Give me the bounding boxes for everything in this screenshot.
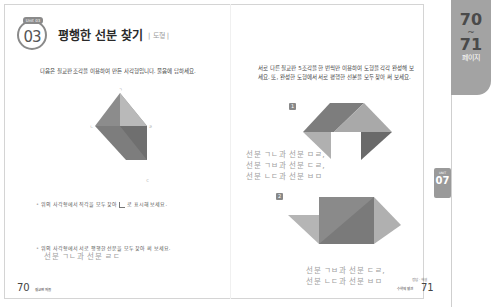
right-page-number: 71 bbox=[421, 282, 434, 293]
figure-1-number: 1 bbox=[289, 103, 296, 110]
page-range-label: 페이지 bbox=[451, 53, 491, 63]
point-label: ㄷ bbox=[146, 178, 149, 183]
figure-2-answer: 선분 ㄱㅂ과 선분 ㄷㄹ, 선분 ㄴㄷ과 선분 ㅂㅁ bbox=[306, 265, 385, 287]
unit-tab-number: 07 bbox=[434, 175, 451, 187]
page-range-tab: 70 ~ 71 페이지 bbox=[451, 0, 491, 95]
bullet-mark: • bbox=[36, 201, 39, 207]
question-1: •위의 사각형에서 직각을 모두 찾아로 표시해 보세요. bbox=[36, 200, 167, 208]
page-title: 평행한 선분 찾기 bbox=[58, 26, 143, 43]
category-label: | 도형 | bbox=[148, 30, 169, 40]
point-label: ㄱ bbox=[119, 87, 122, 92]
right-instruction-line1: 서로 다른 칠교판 5조각을 한 번씩만 이용하여 도형을 각각 완성해 보 bbox=[258, 64, 438, 73]
right-angle-icon bbox=[119, 202, 125, 208]
point-label: ㄹ bbox=[149, 124, 152, 129]
figure-1-answer-line: 선분 ㄱㅂ과 선분 ㄷㄹ, bbox=[246, 160, 325, 171]
side-divider bbox=[451, 95, 452, 307]
left-page-footer: 칠교판 퍼즐 bbox=[35, 287, 51, 292]
figure-2-answer-line: 선분 ㄱㅂ과 선분 ㄷㄹ, bbox=[306, 265, 385, 276]
question-1-text-after: 로 표시해 보세요. bbox=[127, 201, 167, 207]
question-2-answer: 선분 ㄱㄴ과 선분 ㄹㄷ bbox=[44, 251, 120, 262]
question-2: •위의 사각형에서 서로 평행한 선분을 모두 찾아 써 보세요. bbox=[36, 244, 170, 251]
right-instruction-line2: 세요. 또, 완성한 도형에서 서로 평행한 선분을 모두 찾아 써 보세요. bbox=[258, 73, 438, 82]
unit-badge: Unit 03 03 bbox=[17, 20, 47, 50]
figure-1-answer-line: 선분 ㄱㄴ과 선분 ㅁㄹ, bbox=[246, 149, 325, 160]
page-gutter bbox=[230, 4, 231, 299]
page-range-start: 70 bbox=[451, 12, 491, 28]
question-1-text: 위의 사각형에서 직각을 모두 찾아 bbox=[41, 201, 117, 207]
right-instruction: 서로 다른 칠교판 5조각을 한 번씩만 이용하여 도형을 각각 완성해 보 세… bbox=[258, 64, 438, 82]
left-page-number: 70 bbox=[17, 282, 30, 293]
right-page-footer: 수학의 발견 bbox=[397, 286, 413, 291]
point-label: ㄴ bbox=[90, 124, 93, 129]
figure-1-answer: 선분 ㄱㄴ과 선분 ㅁㄹ, 선분 ㄱㅂ과 선분 ㄷㄹ, 선분 ㄴㄷ과 선분 ㅂㅁ bbox=[246, 149, 325, 182]
figure-1-answer-line: 선분 ㄴㄷ과 선분 ㅂㅁ bbox=[246, 171, 325, 182]
left-figure bbox=[90, 85, 160, 160]
figure-2-shape bbox=[280, 192, 420, 257]
figure-2-answer-line: 선분 ㄴㄷ과 선분 ㅂㅁ bbox=[306, 276, 385, 287]
page-range-end: 71 bbox=[451, 37, 491, 53]
unit-tab: UNIT 07 bbox=[434, 168, 451, 198]
unit-number: 03 bbox=[19, 28, 45, 46]
left-instruction: 다음은 칠교판 조각을 이용하여 만든 사각형입니다. 물음에 답하세요. bbox=[40, 67, 196, 76]
unit-label: Unit 03 bbox=[23, 17, 43, 24]
bullet-mark: • bbox=[36, 245, 39, 251]
